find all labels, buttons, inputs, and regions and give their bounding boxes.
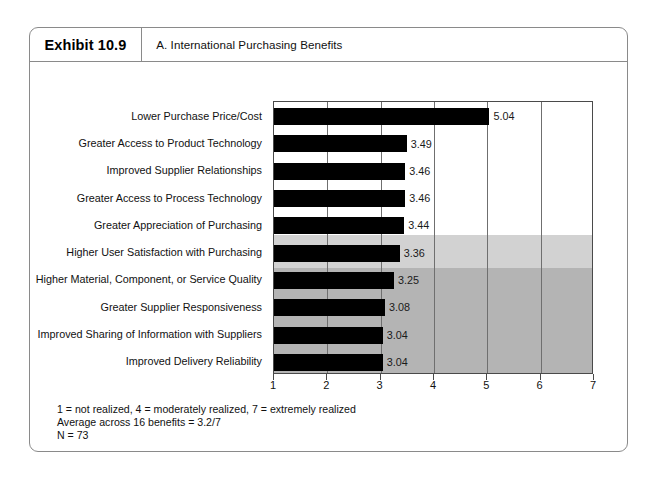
category-label: Higher Material, Component, or Service Q… (30, 266, 268, 293)
category-axis-labels: Lower Purchase Price/CostGreater Access … (30, 101, 268, 374)
category-label: Greater Appreciation of Purchasing (30, 211, 268, 238)
bar-value-label: 3.08 (389, 302, 410, 313)
footnote-scale: 1 = not realized, 4 = moderately realize… (57, 403, 356, 416)
bar-row: 5.04 (274, 103, 592, 130)
bar-row: 3.25 (274, 267, 592, 294)
tick-label-5: 5 (483, 380, 489, 391)
bar (274, 272, 394, 289)
category-label: Lower Purchase Price/Cost (30, 102, 268, 129)
bar-value-label: 3.44 (408, 220, 429, 231)
bar (274, 217, 404, 234)
bar (274, 354, 383, 371)
bar (274, 108, 489, 125)
bar-row: 3.44 (274, 212, 592, 239)
bar (274, 163, 405, 180)
bar-row: 3.49 (274, 130, 592, 157)
bar-value-label: 3.46 (409, 193, 430, 204)
bar-row: 3.04 (274, 349, 592, 374)
tick-label-2: 2 (323, 380, 329, 391)
bar (274, 299, 385, 316)
category-label: Improved Supplier Relationships (30, 157, 268, 184)
bar (274, 245, 400, 262)
bar-row: 3.46 (274, 158, 592, 185)
bar-row: 3.36 (274, 240, 592, 267)
footnotes: 1 = not realized, 4 = moderately realize… (57, 403, 356, 443)
bar-value-label: 3.04 (387, 330, 408, 341)
tick-label-1: 1 (270, 380, 276, 391)
tick-label-3: 3 (377, 380, 383, 391)
category-label: Improved Sharing of Information with Sup… (30, 320, 268, 347)
bars-layer: 5.043.493.463.463.443.363.253.083.043.04 (274, 102, 592, 373)
category-label: Greater Access to Process Technology (30, 184, 268, 211)
bar-value-label: 3.46 (409, 166, 430, 177)
bar-value-label: 5.04 (493, 111, 514, 122)
category-label: Improved Delivery Reliability (30, 348, 268, 375)
chart-body: Lower Purchase Price/CostGreater Access … (30, 62, 627, 451)
x-axis-tick-labels: 1234567 (273, 380, 593, 396)
exhibit-frame: Exhibit 10.9 A. International Purchasing… (29, 27, 628, 452)
exhibit-title: A. International Purchasing Benefits (142, 38, 342, 51)
bar-row: 3.08 (274, 294, 592, 321)
bar-value-label: 3.25 (398, 275, 419, 286)
category-label: Greater Supplier Responsiveness (30, 293, 268, 320)
tick-label-4: 4 (430, 380, 436, 391)
footnote-average: Average across 16 benefits = 3.2/7 (57, 416, 356, 429)
tick-label-7: 7 (590, 380, 596, 391)
bar (274, 135, 407, 152)
plot-area: 5.043.493.463.463.443.363.253.083.043.04 (273, 101, 593, 374)
bar (274, 327, 383, 344)
bar-row: 3.04 (274, 321, 592, 348)
exhibit-header: Exhibit 10.9 A. International Purchasing… (30, 28, 627, 62)
category-label: Greater Access to Product Technology (30, 129, 268, 156)
footnote-sample-size: N = 73 (57, 429, 356, 442)
tick-label-6: 6 (537, 380, 543, 391)
bar (274, 190, 405, 207)
bar-value-label: 3.49 (411, 139, 432, 150)
category-label: Higher User Satisfaction with Purchasing (30, 239, 268, 266)
exhibit-number: Exhibit 10.9 (30, 37, 141, 53)
bar-row: 3.46 (274, 185, 592, 212)
bar-value-label: 3.36 (404, 248, 425, 259)
bar-value-label: 3.04 (387, 357, 408, 368)
